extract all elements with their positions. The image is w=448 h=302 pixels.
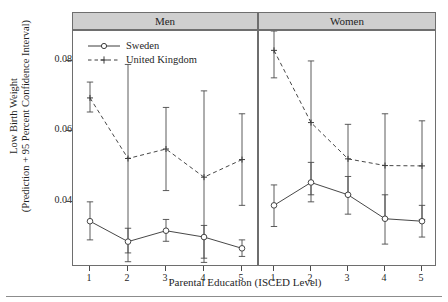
x-tick-mark: [347, 266, 348, 271]
y-axis-label: Low Birth Weight (Prediction + 95 Percen…: [8, 10, 32, 222]
x-tick-mark: [310, 266, 311, 271]
x-tick-mark: [384, 266, 385, 271]
x-tick-mark: [241, 266, 242, 271]
x-axis-label-text: Parental Education (ISCED Level): [126, 276, 321, 288]
panel-header-men: Men: [72, 12, 258, 30]
bottom-rule: [6, 296, 442, 297]
x-tick-mark: [127, 266, 128, 271]
y-tick-label: 0.08: [0, 53, 72, 64]
data-point-plus: [382, 163, 388, 169]
data-point-circle: [163, 228, 169, 234]
data-point-circle: [271, 203, 277, 209]
data-point-plus: [239, 157, 245, 163]
panel-women: [258, 30, 436, 266]
data-point-plus: [419, 163, 425, 169]
data-point-circle: [382, 216, 388, 222]
legend-label-united-kingdom: United Kingdom: [126, 53, 197, 67]
data-point-circle: [239, 246, 245, 252]
data-point-circle: [308, 180, 314, 186]
y-tick-label: 0.04: [0, 194, 72, 205]
panel-women-plot: [259, 31, 436, 266]
legend-item-united-kingdom: United Kingdom: [87, 53, 197, 67]
legend-key-uk-icon: [87, 53, 121, 67]
data-point-plus: [87, 95, 93, 101]
x-tick-mark: [273, 266, 274, 271]
panel-header-men-label: Men: [155, 15, 175, 27]
y-tick-label: 0.06: [0, 123, 72, 134]
legend: Sweden United Kingdom: [87, 39, 197, 67]
data-point-circle: [201, 234, 207, 240]
error-bar: [308, 61, 314, 195]
data-point-plus: [271, 47, 277, 53]
legend-item-sweden: Sweden: [87, 39, 197, 53]
x-axis-label: Parental Education (ISCED Level): [0, 276, 448, 288]
figure-root: Low Birth Weight (Prediction + 95 Percen…: [0, 0, 448, 302]
data-point-circle: [345, 192, 351, 198]
x-tick-mark: [89, 266, 90, 271]
data-point-plus: [125, 156, 131, 162]
panel-header-women-label: Women: [330, 15, 364, 27]
panel-men: Sweden United Kingdom: [72, 30, 258, 266]
x-tick-mark: [203, 266, 204, 271]
data-point-circle: [125, 239, 131, 245]
error-bar: [419, 121, 425, 220]
data-point-circle: [87, 218, 93, 224]
x-tick-mark: [165, 266, 166, 271]
panel-header-women: Women: [258, 12, 436, 30]
error-bar: [271, 31, 277, 78]
legend-key-sweden-icon: [87, 39, 121, 53]
x-tick-mark: [421, 266, 422, 271]
data-point-circle: [419, 218, 425, 224]
plot-area: Men Women Sweden: [72, 12, 436, 266]
legend-label-sweden: Sweden: [126, 39, 159, 53]
